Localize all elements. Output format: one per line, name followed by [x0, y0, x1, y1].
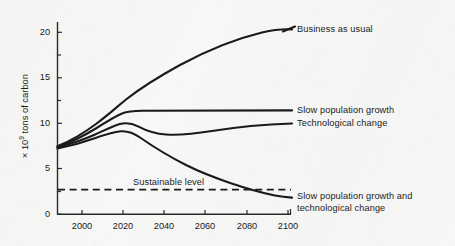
- series-line-business-as-usual: [58, 29, 293, 146]
- x-tick-label-2000: 2000: [62, 221, 102, 231]
- y-tick-label-10: 10: [28, 118, 50, 128]
- y-axis-label-prefix: × 10: [19, 140, 30, 159]
- sustainable-level-label: Sustainable level: [133, 177, 204, 188]
- series-label-technological-change: Technological change: [297, 118, 387, 129]
- chart-figure: × 109 tons of carbon 20 15 10 5 0 2000 2…: [0, 0, 455, 246]
- x-tick-label-2100: 2100: [268, 221, 308, 231]
- series-label-line-1: Slow population growth and: [297, 191, 412, 201]
- y-tick-label-0: 0: [28, 209, 50, 219]
- y-tick-label-5: 5: [28, 163, 50, 173]
- x-tick-label-2040: 2040: [144, 221, 184, 231]
- y-tick-label-15: 15: [28, 72, 50, 82]
- x-tick-label-2060: 2060: [185, 221, 225, 231]
- x-tick-label-2020: 2020: [103, 221, 143, 231]
- x-tick-marks: [82, 209, 291, 214]
- series-label-business-as-usual: Business as usual: [297, 24, 373, 35]
- series-line-slow-population-growth: [58, 110, 293, 146]
- series-label-slow-population-growth-and-technological-change: Slow population growth and technological…: [297, 191, 447, 214]
- series-label-slow-population-growth: Slow population growth: [297, 105, 394, 116]
- series-label-line-2: technological change: [297, 203, 385, 213]
- y-axis-label-exponent: 9: [18, 136, 25, 140]
- x-tick-label-2080: 2080: [227, 221, 267, 231]
- y-tick-label-20: 20: [28, 27, 50, 37]
